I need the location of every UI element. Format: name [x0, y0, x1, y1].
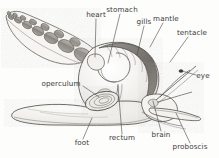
- label-proboscis: proboscis: [172, 143, 207, 150]
- label-eye: eye: [196, 72, 209, 79]
- label-mantle: mantle: [153, 15, 179, 22]
- label-brain: brain: [152, 131, 171, 138]
- foot-mass: [12, 101, 159, 125]
- label-tentacle: tentacle: [177, 29, 207, 36]
- tentacle-leader: [170, 37, 188, 62]
- label-foot: foot: [75, 139, 90, 146]
- label-stomach: stomach: [106, 6, 138, 13]
- label-gills: gills: [137, 18, 152, 25]
- label-heart: heart: [86, 11, 106, 18]
- mantle-leader: [150, 23, 163, 47]
- snail-anatomy-figure: heartstomachgillsmantletentacleeyeopercu…: [0, 0, 219, 158]
- label-rectum: rectum: [109, 134, 135, 141]
- label-operculum: operculum: [41, 80, 80, 87]
- shell-spire: [6, 11, 96, 65]
